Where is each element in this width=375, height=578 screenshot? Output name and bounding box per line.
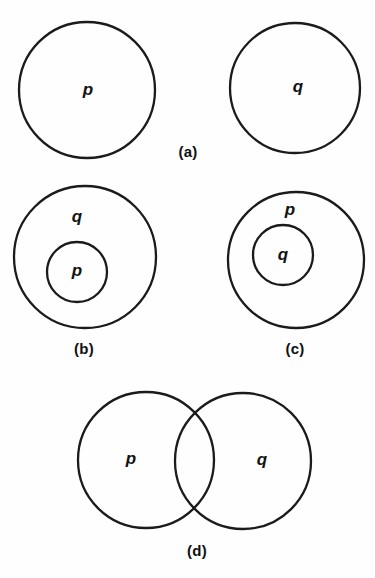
panel-a: p q (a) — [19, 22, 360, 160]
diagram-canvas: p q (a) q p (b) p q (c) p q (d) — [0, 0, 375, 578]
caption-panel-a: (a) — [179, 143, 198, 160]
circle-p-panel-c — [228, 192, 364, 328]
panel-b: q p (b) — [14, 186, 156, 357]
label-p-panel-a: p — [82, 80, 93, 99]
panel-d: p q (d) — [78, 392, 311, 559]
label-p-panel-b: p — [71, 261, 82, 280]
circle-q-panel-b — [14, 186, 156, 328]
label-q-panel-d: q — [257, 450, 268, 469]
panel-c: p q (c) — [228, 192, 364, 357]
label-p-panel-c: p — [284, 200, 295, 219]
euler-diagram-figure: p q (a) q p (b) p q (c) p q (d) — [0, 0, 375, 578]
circle-q-panel-d — [175, 393, 311, 529]
label-q-panel-b: q — [72, 207, 83, 226]
caption-panel-d: (d) — [187, 542, 207, 559]
label-q-panel-a: q — [293, 77, 304, 96]
label-p-panel-d: p — [125, 449, 136, 468]
caption-panel-c: (c) — [286, 340, 305, 357]
label-q-panel-c: q — [278, 245, 289, 264]
caption-panel-b: (b) — [74, 340, 94, 357]
